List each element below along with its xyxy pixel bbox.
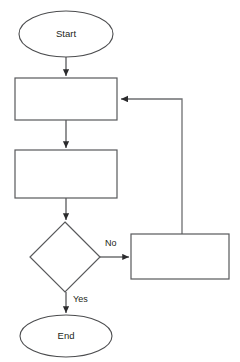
edge-label-no: No xyxy=(105,238,117,248)
node-start[interactable]: Start xyxy=(19,11,113,57)
edge-label-yes: Yes xyxy=(73,294,88,304)
flowchart-canvas: Start End No Yes xyxy=(0,0,240,362)
node-process-1[interactable] xyxy=(15,78,117,120)
node-process-3[interactable] xyxy=(131,234,229,279)
edge-process-3-loop-to-process-1 xyxy=(121,99,182,234)
node-process-2[interactable] xyxy=(15,150,117,198)
node-end[interactable]: End xyxy=(20,315,112,357)
node-start-label: Start xyxy=(56,28,76,39)
node-end-label: End xyxy=(58,330,75,341)
node-decision[interactable] xyxy=(30,222,100,292)
